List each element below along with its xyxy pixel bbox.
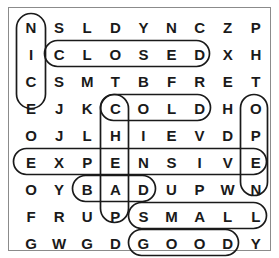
grid-cell[interactable]: G bbox=[73, 230, 101, 257]
grid-cell[interactable]: X bbox=[214, 41, 242, 68]
grid-cell[interactable]: S bbox=[129, 41, 157, 68]
grid-cell[interactable]: U bbox=[73, 203, 101, 230]
grid-cell[interactable]: L bbox=[214, 203, 242, 230]
grid-cell[interactable]: T bbox=[101, 68, 129, 95]
grid-cell[interactable]: X bbox=[45, 149, 73, 176]
grid-cell[interactable]: L bbox=[73, 122, 101, 149]
grid-cell[interactable]: L bbox=[242, 203, 270, 230]
grid-cell[interactable]: R bbox=[186, 68, 214, 95]
grid-cell[interactable]: C bbox=[17, 68, 45, 95]
grid-cell[interactable]: E bbox=[101, 149, 129, 176]
grid-cell[interactable]: I bbox=[186, 149, 214, 176]
grid-cell[interactable]: S bbox=[45, 68, 73, 95]
grid-cell[interactable]: V bbox=[186, 122, 214, 149]
grid-cell[interactable]: V bbox=[214, 149, 242, 176]
grid-cell[interactable]: H bbox=[214, 95, 242, 122]
grid-cell[interactable]: P bbox=[101, 203, 129, 230]
grid-cell[interactable]: O bbox=[186, 230, 214, 257]
grid-cell[interactable]: I bbox=[129, 122, 157, 149]
grid-cell[interactable]: G bbox=[17, 230, 45, 257]
grid-cell[interactable]: D bbox=[129, 176, 157, 203]
grid-cell[interactable]: T bbox=[242, 68, 270, 95]
grid-cell[interactable]: N bbox=[129, 149, 157, 176]
grid-cell[interactable]: L bbox=[73, 14, 101, 41]
grid-cell[interactable]: I bbox=[17, 41, 45, 68]
grid-cell[interactable]: J bbox=[45, 122, 73, 149]
grid-cell[interactable]: K bbox=[73, 95, 101, 122]
grid-cell[interactable]: E bbox=[242, 149, 270, 176]
grid-cell[interactable]: E bbox=[214, 68, 242, 95]
grid-cell[interactable]: L bbox=[73, 41, 101, 68]
grid-cell[interactable]: P bbox=[73, 149, 101, 176]
grid-cell[interactable]: N bbox=[158, 14, 186, 41]
grid-cell[interactable]: M bbox=[73, 68, 101, 95]
grid-cell[interactable]: Y bbox=[45, 176, 73, 203]
grid-cell[interactable]: O bbox=[129, 95, 157, 122]
grid-cell[interactable]: N bbox=[242, 176, 270, 203]
grid-cell[interactable]: D bbox=[214, 230, 242, 257]
grid-cell[interactable]: H bbox=[101, 122, 129, 149]
grid-cell[interactable]: P bbox=[242, 14, 270, 41]
grid-cell[interactable]: E bbox=[158, 41, 186, 68]
grid-cell[interactable]: B bbox=[73, 176, 101, 203]
grid-cell[interactable]: W bbox=[45, 230, 73, 257]
grid-cell[interactable]: S bbox=[45, 14, 73, 41]
grid-cell[interactable]: S bbox=[158, 149, 186, 176]
grid-cell[interactable]: C bbox=[186, 14, 214, 41]
grid-cell[interactable]: D bbox=[186, 41, 214, 68]
grid-cell[interactable]: A bbox=[186, 203, 214, 230]
grid-cell[interactable]: O bbox=[17, 176, 45, 203]
grid-cell[interactable]: L bbox=[158, 95, 186, 122]
grid-cell[interactable]: Z bbox=[214, 14, 242, 41]
grid-cell[interactable]: D bbox=[214, 122, 242, 149]
grid-cell[interactable]: B bbox=[129, 68, 157, 95]
grid-cell[interactable]: G bbox=[129, 230, 157, 257]
grid-cell[interactable]: S bbox=[129, 203, 157, 230]
grid-cell[interactable]: D bbox=[101, 230, 129, 257]
letter-grid: NSLDYNCZPICLOSEDXHCSMTBFRETEJKCOLDHOOJLH… bbox=[0, 0, 279, 258]
grid-cell[interactable]: W bbox=[214, 176, 242, 203]
grid-cell[interactable]: Y bbox=[242, 230, 270, 257]
grid-cell[interactable]: O bbox=[17, 122, 45, 149]
grid-cell[interactable]: E bbox=[17, 95, 45, 122]
grid-cell[interactable]: O bbox=[158, 230, 186, 257]
grid-cell[interactable]: O bbox=[101, 41, 129, 68]
grid-cell[interactable]: M bbox=[158, 203, 186, 230]
grid-cell[interactable]: D bbox=[186, 95, 214, 122]
grid-cell[interactable]: J bbox=[45, 95, 73, 122]
grid-cell[interactable]: U bbox=[158, 176, 186, 203]
grid-cell[interactable]: O bbox=[242, 95, 270, 122]
grid-cell[interactable]: F bbox=[158, 68, 186, 95]
grid-cell[interactable]: C bbox=[45, 41, 73, 68]
grid-cell[interactable]: E bbox=[17, 149, 45, 176]
word-search-puzzle: NSLDYNCZPICLOSEDXHCSMTBFRETEJKCOLDHOOJLH… bbox=[0, 0, 279, 258]
grid-cell[interactable]: R bbox=[45, 203, 73, 230]
grid-cell[interactable]: F bbox=[17, 203, 45, 230]
grid-cell[interactable]: E bbox=[158, 122, 186, 149]
grid-cell[interactable]: N bbox=[17, 14, 45, 41]
grid-cell[interactable]: A bbox=[101, 176, 129, 203]
grid-cell[interactable]: P bbox=[186, 176, 214, 203]
grid-cell[interactable]: C bbox=[101, 95, 129, 122]
grid-cell[interactable]: D bbox=[101, 14, 129, 41]
grid-cell[interactable]: H bbox=[242, 41, 270, 68]
grid-cell[interactable]: P bbox=[242, 122, 270, 149]
grid-cell[interactable]: Y bbox=[129, 14, 157, 41]
